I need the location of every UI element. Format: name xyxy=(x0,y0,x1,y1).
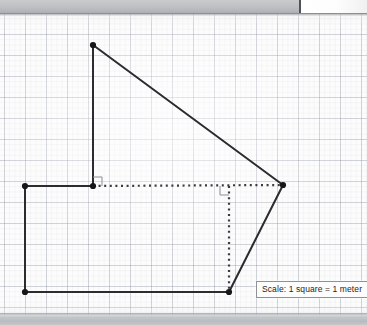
vertex-dot-inner-junction xyxy=(90,183,96,189)
horizontal-construction xyxy=(93,185,283,186)
right-apex-to-bottom xyxy=(229,185,283,292)
apex-to-right-apex xyxy=(93,45,283,185)
solid-polygon-edges xyxy=(25,45,283,292)
polygon-figure xyxy=(0,0,367,325)
dotted-construction-lines xyxy=(93,185,283,292)
vertex-dot-right-apex xyxy=(280,182,286,188)
vertex-dot-bottom-right xyxy=(226,289,232,295)
vertex-dot-bottom-left xyxy=(22,289,28,295)
scale-note-label: Scale: 1 square = 1 meter xyxy=(256,281,367,298)
vertex-dot-top-apex xyxy=(90,42,96,48)
bottom-desk-band xyxy=(0,314,367,325)
vertex-dot-mid-left xyxy=(22,183,28,189)
graph-paper-canvas: Scale: 1 square = 1 meter xyxy=(0,0,367,325)
right-angle-at-foot xyxy=(220,186,229,195)
